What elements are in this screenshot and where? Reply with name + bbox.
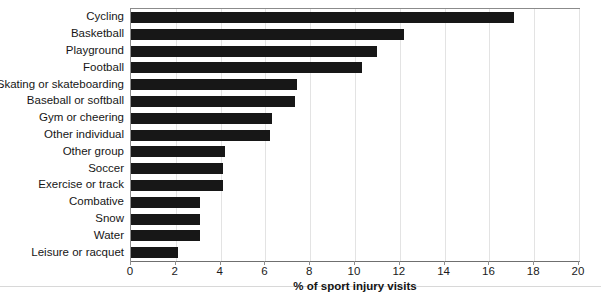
bar [131, 96, 295, 107]
bar-series [131, 9, 579, 261]
tick-label: 6 [249, 265, 279, 277]
sport-injury-bar-chart: CyclingBasketballPlaygroundFootballSkati… [0, 0, 601, 300]
bar [131, 180, 223, 191]
category-label: Other individual [44, 126, 124, 142]
gridline [579, 9, 580, 261]
category-label: Gym or cheering [39, 109, 124, 125]
bar [131, 214, 200, 225]
tick-label: 18 [518, 265, 548, 277]
bar [131, 79, 297, 90]
tick-label: 8 [294, 265, 324, 277]
category-label: Combative [69, 193, 124, 209]
category-label: Snow [95, 210, 124, 226]
category-label: Cycling [86, 8, 124, 24]
category-label: Baseball or softball [27, 92, 124, 108]
bar [131, 113, 272, 124]
tick-label: 16 [473, 265, 503, 277]
category-label: Skating or skateboarding [0, 76, 124, 92]
bar [131, 29, 404, 40]
plot-area [130, 8, 580, 262]
category-label: Exercise or track [38, 176, 124, 192]
category-label: Basketball [71, 25, 124, 41]
category-label: Leisure or racquet [31, 244, 124, 260]
tick-label: 2 [160, 265, 190, 277]
bar [131, 247, 178, 258]
tick-label: 12 [384, 265, 414, 277]
value-axis: 02468101214161820 [130, 261, 580, 281]
category-label: Playground [66, 42, 124, 58]
x-axis-title: % of sport injury visits [130, 280, 580, 292]
tick-label: 14 [429, 265, 459, 277]
bar [131, 12, 514, 23]
tick-label: 20 [563, 265, 593, 277]
bar [131, 163, 223, 174]
bar [131, 197, 200, 208]
category-label: Other group [63, 143, 124, 159]
category-label: Soccer [88, 160, 124, 176]
tick-label: 4 [205, 265, 235, 277]
bar [131, 146, 225, 157]
bar [131, 230, 200, 241]
tick-label: 10 [339, 265, 369, 277]
category-axis: CyclingBasketballPlaygroundFootballSkati… [0, 8, 128, 260]
bar [131, 46, 377, 57]
tick-label: 0 [115, 265, 145, 277]
category-label: Water [94, 227, 124, 243]
bar [131, 62, 362, 73]
bar [131, 130, 270, 141]
category-label: Football [83, 59, 124, 75]
